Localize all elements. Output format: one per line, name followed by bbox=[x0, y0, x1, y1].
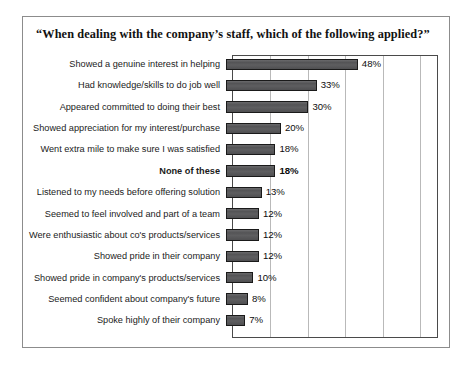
bar-row: Showed pride in their company12% bbox=[23, 246, 451, 267]
bar[interactable] bbox=[226, 208, 259, 219]
bar-row: Appeared committed to doing their best30… bbox=[23, 97, 451, 118]
bar-value-label: 30% bbox=[312, 100, 331, 113]
bar-zone: 20% bbox=[226, 118, 451, 139]
bar-zone: 7% bbox=[226, 310, 451, 331]
bar-row: Spoke highly of their company7% bbox=[23, 310, 451, 331]
bar-value-label: 33% bbox=[321, 78, 340, 91]
bar-row: Had knowledge/skills to do job well33% bbox=[23, 75, 451, 96]
bar-value-label: 8% bbox=[252, 292, 266, 305]
bar-value-label: 12% bbox=[263, 228, 282, 241]
bar-row: Showed appreciation for my interest/purc… bbox=[23, 118, 451, 139]
bar-row: Listened to my needs before offering sol… bbox=[23, 182, 451, 203]
bar-zone: 33% bbox=[226, 75, 451, 96]
bar-row: Seemed confident about company's future8… bbox=[23, 289, 451, 310]
bar-row: Seemed to feel involved and part of a te… bbox=[23, 203, 451, 224]
category-label: Had knowledge/skills to do job well bbox=[23, 80, 226, 91]
bar-row: None of these18% bbox=[23, 161, 451, 182]
bar[interactable] bbox=[226, 315, 245, 326]
category-label: Seemed confident about company's future bbox=[23, 294, 226, 305]
bar-row: Were enthusiastic about co's products/se… bbox=[23, 225, 451, 246]
bar-value-label: 12% bbox=[263, 249, 282, 262]
chart-card: “When dealing with the company’s staff, … bbox=[22, 16, 450, 348]
category-label: Went extra mile to make sure I was satis… bbox=[23, 144, 226, 155]
bar[interactable] bbox=[226, 272, 253, 283]
bar[interactable] bbox=[226, 80, 317, 91]
bar[interactable] bbox=[226, 293, 248, 304]
bar-zone: 8% bbox=[226, 289, 451, 310]
bar-zone: 30% bbox=[226, 97, 451, 118]
bar-row: Went extra mile to make sure I was satis… bbox=[23, 139, 451, 160]
bar-row: Showed pride in company's products/servi… bbox=[23, 268, 451, 289]
bar[interactable] bbox=[226, 101, 308, 112]
bar-zone: 48% bbox=[226, 54, 451, 75]
bar-zone: 12% bbox=[226, 246, 451, 267]
bar-zone: 13% bbox=[226, 182, 451, 203]
bar[interactable] bbox=[226, 251, 259, 262]
bar-row: Showed a genuine interest in helping48% bbox=[23, 54, 451, 75]
category-label: Listened to my needs before offering sol… bbox=[23, 187, 226, 198]
bar-value-label: 18% bbox=[279, 164, 298, 177]
category-label: Showed pride in company's products/servi… bbox=[23, 273, 226, 284]
category-label: None of these bbox=[23, 166, 226, 177]
chart-title: “When dealing with the company’s staff, … bbox=[36, 27, 436, 42]
bar[interactable] bbox=[226, 165, 275, 176]
bar-rows: Showed a genuine interest in helping48%H… bbox=[23, 53, 451, 343]
bar-zone: 12% bbox=[226, 225, 451, 246]
bar[interactable] bbox=[226, 123, 281, 134]
category-label: Were enthusiastic about co's products/se… bbox=[23, 230, 226, 241]
bar-zone: 18% bbox=[226, 139, 451, 160]
bar[interactable] bbox=[226, 187, 262, 198]
bar-value-label: 20% bbox=[285, 121, 304, 134]
category-label: Showed pride in their company bbox=[23, 251, 226, 262]
bar-zone: 12% bbox=[226, 203, 451, 224]
bar-value-label: 12% bbox=[263, 207, 282, 220]
category-label: Spoke highly of their company bbox=[23, 315, 226, 326]
plot-wrapper: Showed a genuine interest in helping48%H… bbox=[23, 53, 451, 343]
bar-value-label: 13% bbox=[266, 185, 285, 198]
bar-value-label: 18% bbox=[279, 142, 298, 155]
category-label: Appeared committed to doing their best bbox=[23, 102, 226, 113]
bar[interactable] bbox=[226, 229, 259, 240]
bar-zone: 10% bbox=[226, 268, 451, 289]
bar-value-label: 7% bbox=[249, 313, 263, 326]
category-label: Showed appreciation for my interest/purc… bbox=[23, 123, 226, 134]
bar-value-label: 48% bbox=[362, 57, 381, 70]
category-label: Seemed to feel involved and part of a te… bbox=[23, 209, 226, 220]
category-label: Showed a genuine interest in helping bbox=[23, 59, 226, 70]
bar-value-label: 10% bbox=[257, 271, 276, 284]
bar[interactable] bbox=[226, 59, 358, 70]
bar[interactable] bbox=[226, 144, 275, 155]
bar-zone: 18% bbox=[226, 161, 451, 182]
